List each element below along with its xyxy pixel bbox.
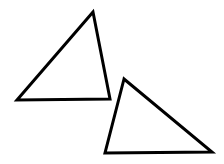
diagram-canvas xyxy=(0,0,224,164)
triangle-shape xyxy=(105,79,212,153)
triangle-shape xyxy=(17,12,110,100)
